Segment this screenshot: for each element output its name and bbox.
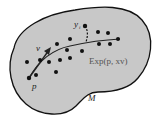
manifold-label: M bbox=[87, 93, 96, 103]
base-point-label: p bbox=[31, 81, 37, 91]
observation-label: y bbox=[73, 19, 78, 29]
curve-label: Exp(p, xv) bbox=[89, 56, 128, 66]
base-point-p bbox=[27, 76, 31, 80]
manifold-diagram: v p y i Exp(p, xv) M bbox=[0, 0, 157, 122]
vector-label: v bbox=[36, 43, 40, 53]
manifold-region bbox=[10, 7, 151, 114]
observation-point-yi bbox=[83, 24, 87, 28]
